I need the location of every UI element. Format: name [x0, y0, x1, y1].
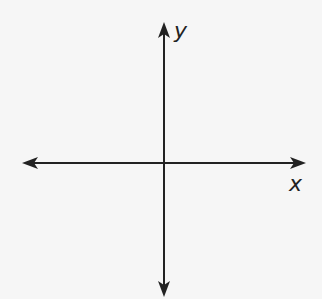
axes-svg: y x: [0, 0, 322, 299]
coordinate-plane: y x: [0, 0, 322, 299]
x-axis-label: x: [288, 171, 303, 196]
y-axis-label: y: [173, 18, 188, 43]
